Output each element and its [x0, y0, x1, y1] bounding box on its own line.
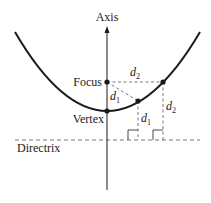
parabola-point-1	[135, 98, 140, 103]
vertex-point	[104, 108, 109, 113]
right-angle-marker-1	[128, 130, 138, 140]
d2-horizontal-label: d2	[130, 65, 140, 81]
d1-vertical-label: d1	[141, 111, 151, 127]
d1-diagonal-label: d1	[110, 89, 120, 105]
axis-label: Axis	[96, 10, 119, 24]
parabola-diagram: Axis Focus Vertex Directrix d2 d1 d1 d2	[0, 0, 211, 203]
right-angle-marker-2	[153, 130, 163, 140]
d2-vertical-label: d2	[166, 99, 176, 115]
directrix-label: Directrix	[17, 141, 60, 155]
axis-arrowhead-icon	[105, 26, 110, 33]
focus-point	[104, 79, 109, 84]
focus-label: Focus	[73, 75, 102, 89]
vertex-label: Vertex	[73, 112, 104, 126]
parabola-point-2	[160, 79, 165, 84]
